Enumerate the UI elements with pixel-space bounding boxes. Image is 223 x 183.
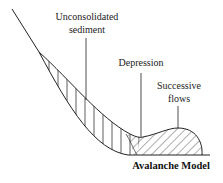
sediment-label-line2: sediment — [69, 24, 105, 35]
slope-line — [12, 9, 39, 52]
flows-label-line2: flows — [168, 93, 190, 104]
avalanche-model-diagram: Unconsolidated sediment Depression Succe… — [0, 0, 223, 183]
sediment-label-line1: Unconsolidated — [56, 11, 119, 22]
diagram-canvas: Unconsolidated sediment Depression Succe… — [0, 0, 223, 183]
diagram-title: Avalanche Model — [132, 160, 210, 171]
flows-region — [126, 128, 202, 155]
flows-label-line1: Successive — [157, 80, 201, 91]
depression-label: Depression — [119, 57, 164, 68]
